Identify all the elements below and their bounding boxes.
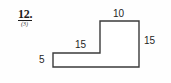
dimension-label-left: 5 bbox=[39, 54, 45, 65]
dimension-label-right: 15 bbox=[144, 35, 155, 46]
dimension-label-middle: 15 bbox=[75, 39, 86, 50]
problem-figure-page: 12. (3) 10 15 15 5 bbox=[0, 0, 171, 83]
l-shape-polygon bbox=[53, 21, 139, 67]
dimension-label-top: 10 bbox=[113, 8, 124, 19]
